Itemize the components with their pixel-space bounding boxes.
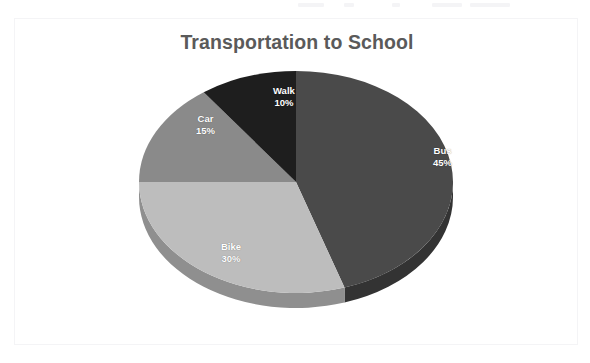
- page-scan-artifact: [0, 0, 590, 14]
- pie-chart: Bus45%Bike30%Car15%Walk10%: [15, 19, 579, 346]
- pie-top-faces: [139, 71, 453, 293]
- pie-chart-svg: [15, 19, 579, 346]
- chart-frame: Transportation to School Bus45%Bike30%Ca…: [14, 18, 578, 345]
